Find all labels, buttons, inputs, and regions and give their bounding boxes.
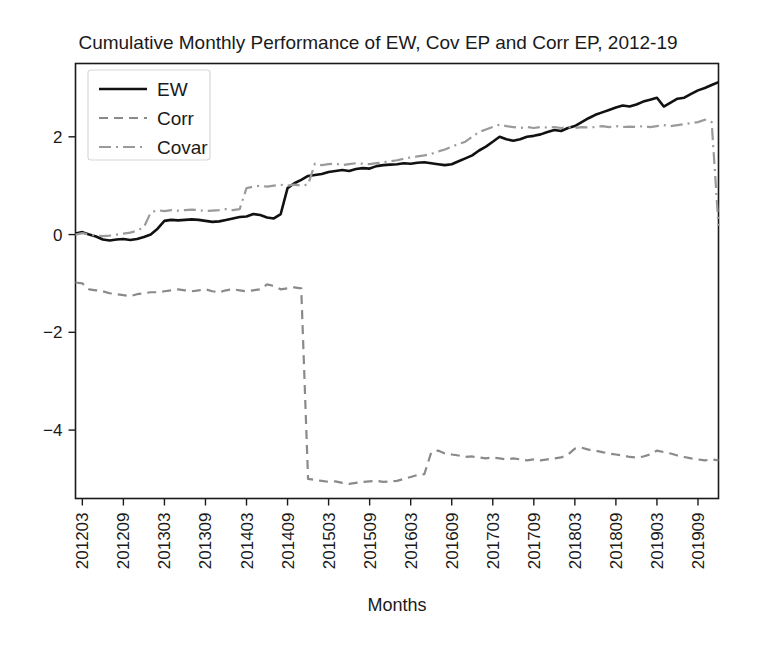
y-tick-label: 2 <box>53 128 62 147</box>
legend-label-ew[interactable]: EW <box>157 79 188 100</box>
cumulative-performance-line-chart: Cumulative Monthly Performance of EW, Co… <box>0 0 757 646</box>
chart-title: Cumulative Monthly Performance of EW, Co… <box>78 32 677 53</box>
x-tick-label: 201703 <box>484 513 503 570</box>
y-tick-label: 0 <box>53 226 62 245</box>
y-tick-label: −4 <box>43 421 62 440</box>
x-tick-label: 201509 <box>361 513 380 570</box>
x-tick-label: 201303 <box>155 513 174 570</box>
x-tick-label: 201909 <box>689 513 708 570</box>
x-axis-label: Months <box>367 595 426 615</box>
x-tick-label: 201309 <box>196 513 215 570</box>
x-tick-label: 201409 <box>279 513 298 570</box>
chart-figure: Cumulative Monthly Performance of EW, Co… <box>0 0 757 646</box>
x-tick-label: 201209 <box>114 513 133 570</box>
legend-label-covar[interactable]: Covar <box>157 137 208 158</box>
x-tick-label: 201203 <box>73 513 92 570</box>
y-tick-label: −2 <box>43 323 62 342</box>
x-tick-label: 201809 <box>607 513 626 570</box>
x-tick-label: 201903 <box>648 513 667 570</box>
x-tick-label: 201709 <box>525 513 544 570</box>
chart-legend[interactable]: EWCorrCovar <box>88 70 210 160</box>
x-tick-label: 201403 <box>238 513 257 570</box>
x-tick-label: 201603 <box>402 513 421 570</box>
x-tick-label: 201803 <box>566 513 585 570</box>
x-tick-label: 201609 <box>443 513 462 570</box>
x-tick-label: 201503 <box>320 513 339 570</box>
legend-label-corr[interactable]: Corr <box>157 108 195 129</box>
